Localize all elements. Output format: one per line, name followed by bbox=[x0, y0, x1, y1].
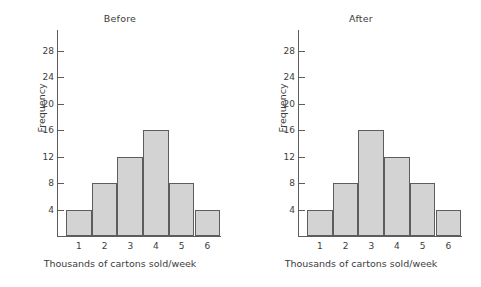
x-axis-line-after bbox=[298, 236, 462, 237]
histogram-bar bbox=[307, 210, 333, 236]
plot-area-before: Frequency 481216202428 123456 Thousands … bbox=[0, 0, 240, 287]
histogram-bar bbox=[92, 183, 118, 236]
y-tick-mark bbox=[299, 183, 305, 184]
histogram-bar bbox=[117, 157, 143, 236]
x-tick-label: 2 bbox=[333, 241, 359, 251]
y-tick-mark bbox=[299, 51, 305, 52]
x-tick-label: 1 bbox=[307, 241, 333, 251]
y-tick-label: 12 bbox=[28, 153, 54, 162]
histogram-bar bbox=[358, 130, 384, 236]
x-axis-line-before bbox=[57, 236, 221, 237]
y-tick-label: 28 bbox=[28, 47, 54, 56]
y-axis-line-after bbox=[298, 30, 299, 237]
histogram-figure: Before Frequency 481216202428 123456 Tho… bbox=[0, 0, 481, 287]
x-tick-label: 3 bbox=[117, 241, 143, 251]
y-tick-label: 16 bbox=[28, 126, 54, 135]
x-tick-label: 1 bbox=[66, 241, 92, 251]
x-tick-label: 4 bbox=[143, 241, 169, 251]
y-tick-label: 20 bbox=[269, 100, 295, 109]
y-tick-label: 4 bbox=[28, 206, 54, 215]
y-tick-mark bbox=[58, 77, 64, 78]
chart-panel-before: Before Frequency 481216202428 123456 Tho… bbox=[0, 0, 240, 287]
x-tick-label: 4 bbox=[384, 241, 410, 251]
x-axis-label-before: Thousands of cartons sold/week bbox=[0, 258, 240, 269]
x-tick-label: 6 bbox=[435, 241, 461, 251]
y-tick-mark bbox=[58, 210, 64, 211]
y-tick-label: 24 bbox=[269, 73, 295, 82]
y-tick-mark bbox=[299, 104, 305, 105]
histogram-bar bbox=[195, 210, 221, 236]
y-tick-mark bbox=[299, 210, 305, 211]
y-tick-mark bbox=[299, 157, 305, 158]
y-tick-mark bbox=[299, 77, 305, 78]
y-tick-mark bbox=[58, 51, 64, 52]
x-tick-label: 5 bbox=[169, 241, 195, 251]
histogram-bar bbox=[169, 183, 195, 236]
histogram-bar bbox=[436, 210, 462, 236]
y-tick-label: 24 bbox=[28, 73, 54, 82]
plot-area-after: Frequency 481216202428 123456 Thousands … bbox=[241, 0, 481, 287]
histogram-bar bbox=[333, 183, 359, 236]
chart-panel-after: After Frequency 481216202428 123456 Thou… bbox=[241, 0, 481, 287]
y-axis-line-before bbox=[57, 30, 58, 237]
y-tick-mark bbox=[299, 130, 305, 131]
y-tick-mark bbox=[58, 130, 64, 131]
x-axis-label-after: Thousands of cartons sold/week bbox=[241, 258, 481, 269]
y-tick-label: 12 bbox=[269, 153, 295, 162]
x-tick-label: 3 bbox=[358, 241, 384, 251]
histogram-bar bbox=[410, 183, 436, 236]
y-tick-mark bbox=[58, 157, 64, 158]
y-tick-label: 8 bbox=[28, 179, 54, 188]
y-tick-label: 20 bbox=[28, 100, 54, 109]
y-tick-mark bbox=[58, 183, 64, 184]
y-tick-label: 28 bbox=[269, 47, 295, 56]
histogram-bar bbox=[66, 210, 92, 236]
y-tick-label: 16 bbox=[269, 126, 295, 135]
x-tick-label: 2 bbox=[92, 241, 118, 251]
y-tick-label: 8 bbox=[269, 179, 295, 188]
x-tick-label: 5 bbox=[410, 241, 436, 251]
histogram-bar bbox=[384, 157, 410, 236]
x-tick-label: 6 bbox=[194, 241, 220, 251]
histogram-bar bbox=[143, 130, 169, 236]
y-tick-mark bbox=[58, 104, 64, 105]
y-tick-label: 4 bbox=[269, 206, 295, 215]
